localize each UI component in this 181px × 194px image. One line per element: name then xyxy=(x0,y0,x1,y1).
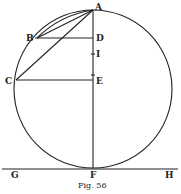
geometry-diagram: A B D I C E G F H Fig. 56 xyxy=(0,0,181,194)
label-D: D xyxy=(96,33,104,43)
label-A: A xyxy=(94,2,103,12)
figure-caption: Fig. 56 xyxy=(78,181,107,190)
label-I: I xyxy=(96,49,100,59)
label-C: C xyxy=(5,76,12,86)
label-E: E xyxy=(96,76,103,86)
label-G: G xyxy=(11,170,19,180)
label-B: B xyxy=(26,33,34,43)
label-F: F xyxy=(90,170,97,180)
line-AB xyxy=(37,10,93,38)
label-H: H xyxy=(165,170,174,180)
